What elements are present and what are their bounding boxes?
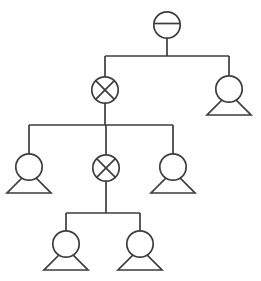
tree-diagram bbox=[0, 0, 261, 281]
node-circle-gen4-right bbox=[127, 231, 153, 257]
node-circle-gen2-right bbox=[216, 76, 242, 102]
node-circle-gen3-left bbox=[16, 154, 42, 180]
diagram-canvas bbox=[0, 0, 261, 281]
node-circle-root bbox=[154, 12, 180, 38]
node-circle-gen3-right bbox=[160, 154, 186, 180]
node-circle-gen4-left bbox=[53, 231, 79, 257]
